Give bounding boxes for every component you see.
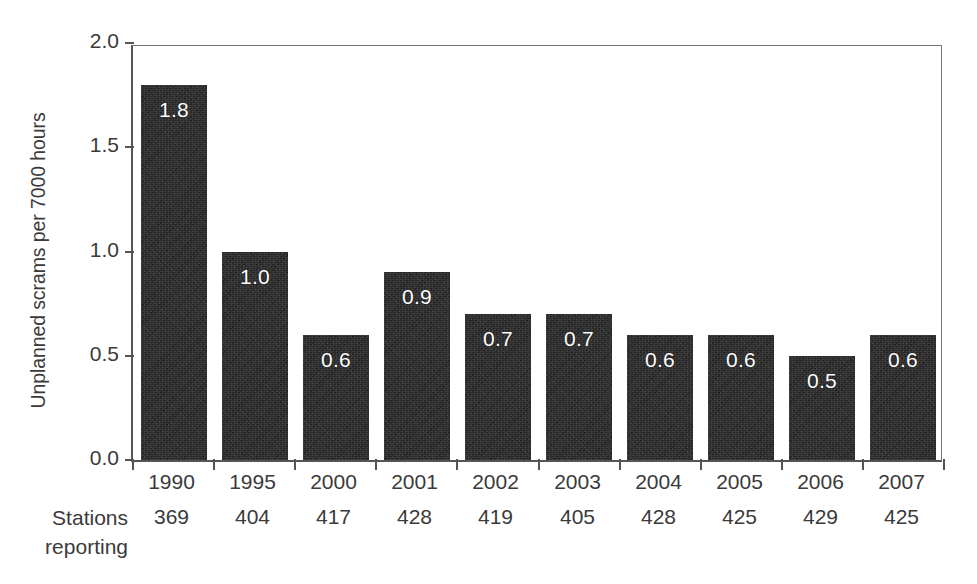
y-axis-title: Unplanned scrams per 7000 hours (27, 51, 50, 471)
x-category-label: 2006 (780, 470, 861, 494)
stations-reporting-line1: Stations (0, 503, 128, 532)
stations-reporting-value: 425 (699, 505, 780, 529)
bar: 1.8 (141, 85, 207, 460)
y-tick-label: 1.0 (90, 238, 119, 262)
stations-reporting-value: 428 (618, 505, 699, 529)
stations-reporting-line2: reporting (0, 532, 128, 561)
stations-reporting-value: 429 (780, 505, 861, 529)
stations-reporting-value: 428 (374, 505, 455, 529)
bar: 0.6 (870, 335, 936, 460)
x-category-label: 2003 (537, 470, 618, 494)
x-tick-mark (700, 459, 702, 470)
bar-value-label: 1.8 (141, 98, 207, 122)
x-category-label: 1995 (212, 470, 293, 494)
x-tick-mark (132, 459, 134, 470)
stations-reporting-value: 419 (455, 505, 536, 529)
y-tick-mark (125, 146, 134, 148)
x-tick-mark (862, 459, 864, 470)
bar: 0.6 (303, 335, 369, 460)
x-category-label: 2002 (455, 470, 536, 494)
bar: 0.9 (384, 272, 450, 460)
y-tick-label: 2.0 (90, 29, 119, 53)
bar-value-label: 0.7 (465, 327, 531, 351)
x-tick-mark (943, 459, 945, 470)
bar-value-label: 0.5 (789, 369, 855, 393)
stations-reporting-value: 417 (293, 505, 374, 529)
stations-reporting-values: 369404417428419405428425429425 (131, 505, 942, 537)
y-tick-mark (125, 355, 134, 357)
bar: 0.5 (789, 356, 855, 460)
x-category-label: 2007 (861, 470, 942, 494)
stations-reporting-value: 425 (861, 505, 942, 529)
stations-reporting-value: 369 (131, 505, 212, 529)
y-tick-label: 1.5 (90, 133, 119, 157)
x-category-label: 1990 (131, 470, 212, 494)
x-tick-mark (375, 459, 377, 470)
y-tick-mark (125, 251, 134, 253)
x-axis-category-labels: 1990199520002001200220032004200520062007 (131, 470, 942, 502)
bar-value-label: 0.9 (384, 285, 450, 309)
bar-value-label: 0.6 (870, 348, 936, 372)
bar: 0.7 (546, 314, 612, 460)
bar-value-label: 0.6 (303, 348, 369, 372)
x-category-label: 2004 (618, 470, 699, 494)
bar: 0.7 (465, 314, 531, 460)
bar: 1.0 (222, 252, 288, 461)
bar-value-label: 0.6 (627, 348, 693, 372)
chart-figure: Unplanned scrams per 7000 hours Stations… (0, 0, 977, 584)
bar-value-label: 0.7 (546, 327, 612, 351)
bar-value-label: 1.0 (222, 265, 288, 289)
y-tick-label: 0.0 (90, 446, 119, 470)
x-tick-mark (619, 459, 621, 470)
y-tick-mark (125, 42, 134, 44)
stations-reporting-value: 404 (212, 505, 293, 529)
x-tick-mark (781, 459, 783, 470)
x-tick-mark (456, 459, 458, 470)
y-tick-label: 0.5 (90, 342, 119, 366)
x-tick-mark (538, 459, 540, 470)
x-tick-mark (213, 459, 215, 470)
x-category-label: 2000 (293, 470, 374, 494)
plot-area: 0.00.51.01.52.0 1.81.00.60.90.70.70.60.6… (131, 45, 942, 462)
stations-reporting-row-header: Stations reporting (0, 503, 128, 561)
bar: 0.6 (708, 335, 774, 460)
bar: 0.6 (627, 335, 693, 460)
x-category-label: 2001 (374, 470, 455, 494)
stations-reporting-value: 405 (537, 505, 618, 529)
x-tick-mark (294, 459, 296, 470)
bar-value-label: 0.6 (708, 348, 774, 372)
x-category-label: 2005 (699, 470, 780, 494)
